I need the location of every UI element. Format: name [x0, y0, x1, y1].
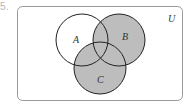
set-c-label: C	[97, 74, 104, 85]
set-a-label: A	[72, 34, 80, 45]
venn-diagram: A B C U	[0, 0, 186, 106]
set-b-label: B	[122, 31, 128, 42]
universe-label: U	[168, 13, 176, 24]
